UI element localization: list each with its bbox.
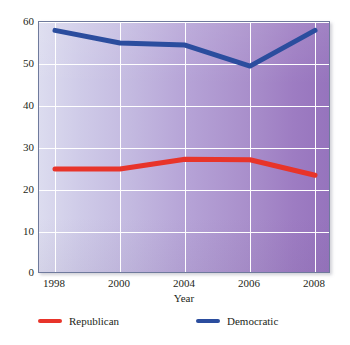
series-line-democratic <box>55 30 315 66</box>
legend-item-republican: Republican <box>38 313 119 329</box>
x-axis-tick-2004: 2004 <box>154 277 214 289</box>
chart-legend: Republican Democratic <box>38 313 338 333</box>
legend-swatch-democratic <box>196 319 220 323</box>
y-axis-tick-10: 10 <box>4 226 34 237</box>
data-series-layer <box>39 22 330 273</box>
x-axis-tick-2006: 2006 <box>219 277 279 289</box>
plot-area <box>38 21 330 273</box>
series-line-republican <box>55 159 315 175</box>
y-axis-tick-20: 20 <box>4 184 34 195</box>
y-axis-tick-60: 60 <box>4 16 34 27</box>
x-axis-tick-2000: 2000 <box>89 277 149 289</box>
legend-item-democratic: Democratic <box>196 313 278 329</box>
y-axis-tick-50: 50 <box>4 58 34 69</box>
x-axis-tick-2008: 2008 <box>284 277 344 289</box>
x-axis-tick-1998: 1998 <box>24 277 84 289</box>
line-chart-figure: 60 50 40 30 20 10 0 1998 2000 2004 2006 … <box>0 0 350 345</box>
legend-label-democratic: Democratic <box>227 315 278 327</box>
legend-label-republican: Republican <box>69 315 119 327</box>
legend-swatch-republican <box>38 319 62 323</box>
y-axis-tick-40: 40 <box>4 100 34 111</box>
x-axis-title: Year <box>38 292 330 304</box>
y-axis-tick-30: 30 <box>4 142 34 153</box>
